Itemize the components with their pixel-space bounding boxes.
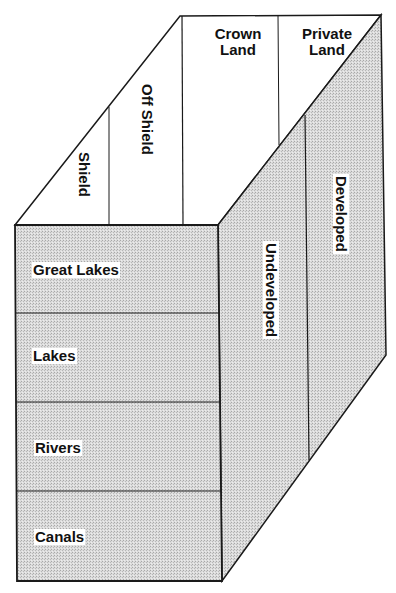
label-crown-land: Crown Land <box>200 26 276 58</box>
label-shield: Shield <box>76 152 92 197</box>
label-great-lakes: Great Lakes <box>32 262 120 278</box>
label-crown-land-line2: Land <box>200 42 276 58</box>
label-crown-land-line1: Crown <box>200 26 276 42</box>
label-developed: Developed <box>333 174 349 254</box>
box-diagram <box>0 0 396 593</box>
label-lakes: Lakes <box>32 348 77 364</box>
label-private-land: Private Land <box>290 26 364 58</box>
label-private-land-line2: Land <box>290 42 364 58</box>
label-rivers: Rivers <box>34 440 82 456</box>
label-undeveloped: Undeveloped <box>263 241 279 339</box>
label-private-land-line1: Private <box>290 26 364 42</box>
label-off-shield: Off Shield <box>139 84 155 155</box>
label-canals: Canals <box>34 529 85 545</box>
